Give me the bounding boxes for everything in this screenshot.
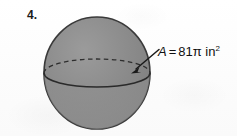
worksheet-page: 4. A=81π in2 [0, 0, 237, 136]
formula-variable: A [158, 44, 167, 59]
formula-units: in [205, 44, 215, 59]
formula-value: 81 [178, 44, 192, 59]
formula-pi-symbol: π [193, 44, 202, 59]
formula-exponent: 2 [215, 44, 219, 53]
sphere-figure [0, 0, 237, 136]
area-formula: A=81π in2 [158, 41, 220, 60]
formula-equals: = [169, 44, 177, 59]
